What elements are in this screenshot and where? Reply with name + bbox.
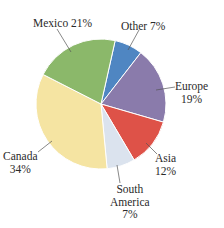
label-mexico-text: Mexico 21%	[33, 17, 92, 30]
leader-line-south-america	[117, 165, 120, 183]
label-canada-pct: 34%	[3, 163, 37, 176]
label-canada: Canada 34%	[3, 150, 37, 175]
pie-slices	[36, 39, 166, 169]
label-mexico: Mexico 21%	[33, 17, 92, 30]
label-south-america-line2: America	[110, 196, 150, 209]
leader-line-canada	[38, 141, 52, 152]
label-europe-pct: 19%	[175, 93, 208, 106]
label-asia-name: Asia	[155, 152, 176, 165]
label-south-america-pct: 7%	[110, 208, 150, 221]
label-other: Other 7%	[121, 20, 165, 33]
label-asia: Asia 12%	[155, 152, 176, 177]
leader-line-other	[128, 30, 139, 50]
label-canada-name: Canada	[3, 150, 37, 163]
label-europe: Europe 19%	[175, 80, 208, 105]
label-europe-name: Europe	[175, 80, 208, 93]
label-asia-pct: 12%	[155, 165, 176, 178]
label-other-text: Other 7%	[121, 20, 165, 33]
label-south-america-line1: South	[110, 183, 150, 196]
leader-line-mexico	[57, 29, 71, 52]
label-south-america: South America 7%	[110, 183, 150, 221]
